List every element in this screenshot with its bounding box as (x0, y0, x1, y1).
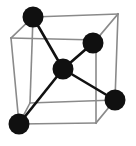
atom-right (105, 90, 126, 111)
atom-center (53, 59, 74, 80)
lattice-diagram-svg (0, 0, 136, 146)
atom-upper-right (83, 33, 104, 54)
atom-top-left (23, 7, 44, 28)
crystal-lattice-figure (0, 0, 136, 146)
cube-edge-back-bottom (19, 123, 96, 124)
atom-bottom-left (9, 114, 30, 135)
